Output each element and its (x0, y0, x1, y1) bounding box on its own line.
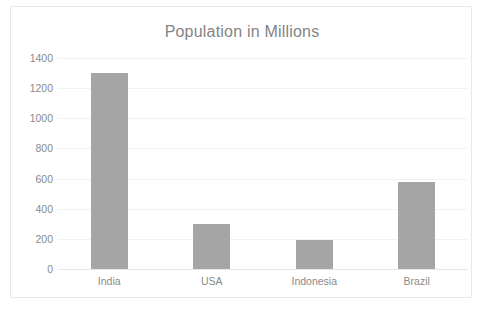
y-axis-tick-label: 400 (11, 203, 53, 215)
y-axis: 1400120010008006004002000 (11, 58, 53, 269)
bar[interactable] (296, 240, 333, 269)
plot-area (58, 58, 468, 269)
bar[interactable] (193, 224, 230, 269)
y-axis-tick-label: 600 (11, 173, 53, 185)
bar[interactable] (398, 182, 435, 269)
y-axis-tick-label: 0 (11, 263, 53, 275)
x-axis-tick-label: Brazil (362, 275, 472, 287)
bar[interactable] (91, 73, 128, 269)
gridline (58, 58, 468, 59)
y-axis-tick-label: 1200 (11, 82, 53, 94)
y-axis-tick-label: 200 (11, 233, 53, 245)
x-axis-tick-label: India (54, 275, 164, 287)
y-axis-tick-label: 1000 (11, 112, 53, 124)
chart-container: Population in Millions 14001200100080060… (10, 6, 472, 298)
axis-line-zero (58, 269, 468, 270)
y-axis-tick-label: 1400 (11, 52, 53, 64)
x-axis-tick-label: Indonesia (259, 275, 369, 287)
x-axis-tick-label: USA (157, 275, 267, 287)
chart-title: Population in Millions (11, 23, 473, 41)
y-axis-tick-label: 800 (11, 142, 53, 154)
